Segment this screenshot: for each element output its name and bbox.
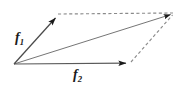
f1-label-base: f xyxy=(15,30,20,45)
f2-vector-label: f2 xyxy=(73,68,82,82)
f2-label-base: f xyxy=(73,67,78,82)
f1-label-subscript: 1 xyxy=(20,37,24,47)
f2-vector-arrow xyxy=(14,63,126,64)
vector-diagram-figure: f1 f2 xyxy=(0,0,186,93)
f1-vector-label: f1 xyxy=(15,31,24,45)
f2-label-subscript: 2 xyxy=(78,74,82,84)
vector-diagram-canvas xyxy=(0,0,186,93)
